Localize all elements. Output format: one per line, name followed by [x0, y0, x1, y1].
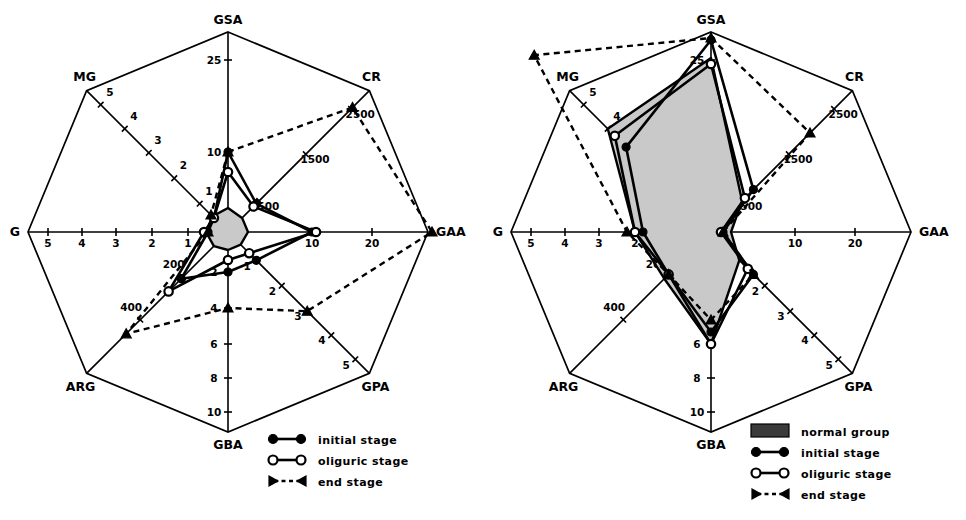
axis-name-cr: CR	[362, 69, 381, 84]
legend-item: end stage	[269, 476, 383, 489]
axis-tick-label-gpa-1: 2	[752, 285, 759, 297]
legend-label: oliguric stage	[318, 455, 409, 468]
axis-tick-label-g-0: 1	[184, 237, 191, 249]
axis-tick-label-mg-4: 5	[589, 86, 596, 98]
marker-open-circle	[611, 132, 619, 140]
legend-filled-circle-icon	[780, 448, 789, 457]
axis-tick-label-cr-1: 1500	[300, 153, 329, 165]
axis-tick-label-gaa-0: 10	[305, 237, 320, 249]
axis-spoke-arg	[87, 232, 228, 373]
legend-label: oliguric stage	[801, 468, 892, 481]
axis-tick-label-gaa-1: 20	[848, 237, 863, 249]
radar-panel-left: 1025GSA50015002500CR1020GAA12345GPA24681…	[0, 0, 483, 520]
marker-open-circle	[164, 287, 172, 295]
legend-label: end stage	[318, 476, 383, 489]
legend-item: initial stage	[752, 447, 881, 460]
legend-triangle-icon	[780, 489, 789, 499]
axis-name-gpa: GPA	[361, 379, 389, 394]
marker-open-circle	[707, 60, 715, 68]
axis-tick-label-gpa-1: 2	[269, 285, 276, 297]
legend-swatch-icon	[751, 424, 789, 437]
axis-name-arg: ARG	[549, 379, 579, 394]
legend-triangle-icon	[752, 489, 761, 499]
axis-name-gaa: GAA	[436, 224, 466, 239]
axis-tick-label-mg-2: 3	[154, 134, 161, 146]
axis-tick-label-gaa-0: 10	[788, 237, 803, 249]
axis-name-mg: MG	[556, 69, 579, 84]
marker-open-circle	[741, 194, 749, 202]
marker-filled-circle	[622, 143, 630, 151]
axis-tick-label-gaa-1: 20	[365, 237, 380, 249]
axis-name-cr: CR	[845, 69, 864, 84]
radar-panel-right: 1025GSA50015002500CR1020GAA12345GPA24681…	[483, 0, 966, 520]
legend-item: end stage	[752, 489, 866, 502]
axis-tick-label-gpa-2: 3	[777, 310, 784, 322]
legend-filled-circle-icon	[269, 435, 278, 444]
axis-tick-label-g-3: 4	[561, 237, 568, 249]
axis-name-arg: ARG	[66, 379, 96, 394]
axis-tick-label-gba-3: 8	[210, 372, 217, 384]
legend-filled-circle-icon	[752, 448, 761, 457]
axis-tick-label-gsa-0: 10	[207, 146, 222, 158]
axis-tick-label-g-4: 5	[44, 237, 51, 249]
axis-name-gpa: GPA	[844, 379, 872, 394]
marker-open-circle	[312, 228, 320, 236]
legend-open-circle-icon	[297, 456, 306, 465]
marker-open-circle	[245, 249, 253, 257]
axis-tick-label-g-4: 5	[527, 237, 534, 249]
axis-tick-label-gba-3: 8	[693, 372, 700, 384]
axis-tick-label-g-2: 3	[595, 237, 602, 249]
legend-triangle-icon	[269, 476, 278, 486]
axis-tick-label-g-3: 4	[78, 237, 85, 249]
axis-tick-label-g-1: 2	[148, 237, 155, 249]
axis-tick-label-gpa-3: 4	[318, 334, 325, 346]
legend-item: oliguric stage	[269, 455, 409, 468]
axis-tick-label-gpa-4: 5	[825, 359, 832, 371]
axis-tick-label-gba-4: 10	[207, 406, 222, 418]
axis-name-gsa: GSA	[697, 12, 726, 27]
legend-item: normal group	[751, 424, 890, 439]
axis-tick-label-mg-0: 1	[205, 185, 212, 197]
legend-label: initial stage	[801, 447, 880, 460]
axis-tick-label-gba-2: 6	[210, 338, 217, 350]
legend-open-circle-icon	[752, 469, 761, 478]
axis-name-g: G	[493, 224, 503, 239]
legend-item: oliguric stage	[752, 468, 892, 481]
axis-tick-label-mg-3: 4	[130, 110, 137, 122]
marker-open-circle	[224, 168, 232, 176]
legend-item: initial stage	[269, 434, 398, 447]
axis-tick-label-arg-1: 400	[603, 301, 625, 313]
axis-tick-label-gpa-4: 5	[342, 359, 349, 371]
axis-tick-label-gba-4: 10	[690, 406, 705, 418]
axis-tick-label-arg-1: 400	[120, 301, 142, 313]
legend-label: initial stage	[318, 434, 397, 447]
axis-tick-label-g-2: 3	[112, 237, 119, 249]
legend-label: end stage	[801, 489, 866, 502]
marker-filled-circle	[707, 328, 715, 336]
axis-name-g: G	[10, 224, 20, 239]
radar-chart-left: 1025GSA50015002500CR1020GAA12345GPA24681…	[0, 0, 483, 520]
marker-open-circle	[249, 202, 257, 210]
legend-filled-circle-icon	[297, 435, 306, 444]
legend-label: normal group	[801, 426, 890, 439]
axis-tick-label-mg-1: 2	[180, 159, 187, 171]
axis-tick-label-gpa-2: 3	[294, 310, 301, 322]
legend-triangle-icon	[297, 476, 306, 486]
series-line-end-stage	[126, 108, 432, 334]
marker-filled-circle	[252, 256, 260, 264]
radar-figure: 1025GSA50015002500CR1020GAA12345GPA24681…	[0, 0, 966, 520]
legend-open-circle-icon	[269, 456, 278, 465]
axis-tick-label-gpa-3: 4	[801, 334, 808, 346]
axis-name-mg: MG	[73, 69, 96, 84]
radar-chart-right: 1025GSA50015002500CR1020GAA12345GPA24681…	[483, 0, 966, 520]
axis-name-gba: GBA	[696, 437, 726, 452]
marker-filled-circle	[749, 186, 757, 194]
marker-filled-circle	[224, 268, 232, 276]
legend-open-circle-icon	[780, 469, 789, 478]
axis-name-gaa: GAA	[919, 224, 949, 239]
axis-tick-label-gba-1: 4	[210, 302, 217, 314]
axis-tick-label-gsa-1: 25	[207, 54, 222, 66]
axis-tick-label-gba-2: 6	[693, 338, 700, 350]
axis-name-gba: GBA	[213, 437, 243, 452]
marker-open-circle	[224, 256, 232, 264]
